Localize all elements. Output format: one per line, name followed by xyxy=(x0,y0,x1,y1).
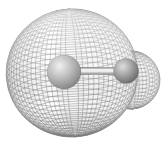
large-atom-sphere xyxy=(47,55,81,89)
molecule-svg xyxy=(0,0,167,147)
small-atom-sphere xyxy=(114,59,139,84)
molecule-figure xyxy=(0,0,167,147)
